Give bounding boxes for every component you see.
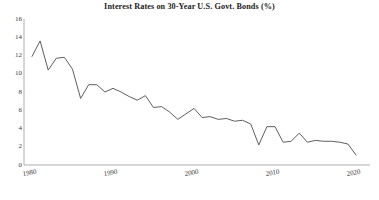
data-series-line xyxy=(32,41,356,155)
chart-figure: Interest Rates on 30-Year U.S. Govt. Bon… xyxy=(0,0,379,200)
plot-area xyxy=(0,0,379,200)
